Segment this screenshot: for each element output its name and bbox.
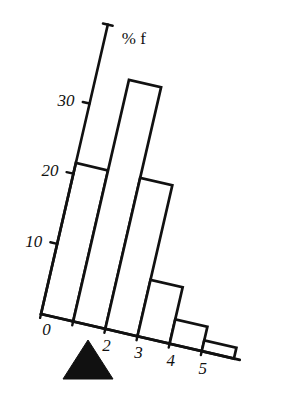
x-tick-label-4: 4 — [166, 351, 175, 370]
y-tick-20 — [67, 172, 74, 174]
x-tick-label-5: 5 — [198, 359, 207, 378]
y-axis-top-cap — [103, 23, 113, 25]
y-tick-10 — [50, 242, 57, 244]
x-tick-label-3: 3 — [133, 343, 143, 362]
x-tick-1 — [72, 321, 73, 325]
bars-group — [41, 72, 286, 358]
x-tick-5 — [201, 351, 202, 355]
skewness-histogram-figure: 30 20 10 0 2 3 4 5 % f — [0, 0, 286, 405]
y-tick-label-20: 20 — [41, 161, 59, 180]
y-tick-label-10: 10 — [25, 232, 43, 251]
x-tick-4 — [169, 344, 170, 348]
x-tick-2 — [104, 329, 105, 333]
figure-root: 30 20 10 0 2 3 4 5 % f — [0, 0, 286, 405]
y-tick-label-30: 30 — [57, 91, 76, 110]
x-tick-label-2: 2 — [102, 336, 111, 355]
x-tick-0 — [40, 314, 41, 318]
tilted-chart-group: 30 20 10 0 2 3 4 5 % f — [1, 13, 286, 386]
x-tick-3 — [137, 336, 138, 340]
x-tick-label-0: 0 — [42, 320, 51, 339]
y-tick-30 — [83, 102, 90, 104]
y-axis-title: % f — [122, 29, 146, 48]
